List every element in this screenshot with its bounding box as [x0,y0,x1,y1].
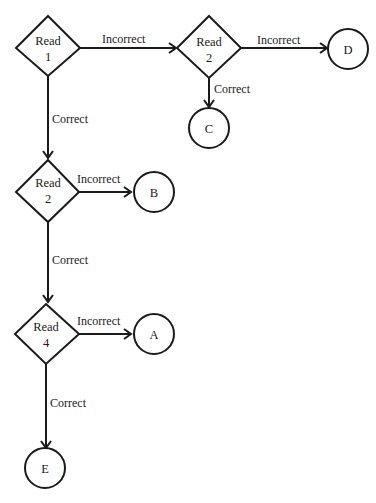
edge-label-read2-top-incorrect: Incorrect [257,33,301,47]
decision-read-4: Read 4 [15,304,79,364]
decision-read-4-line2: 4 [43,336,50,350]
terminal-c-label: C [205,122,213,136]
terminal-a: A [134,314,174,354]
edge-label-read4-correct: Correct [50,396,87,410]
terminal-e-label: E [41,462,49,476]
edge-label-read2-top-correct: Correct [214,82,251,96]
edge-label-read2-mid-incorrect: Incorrect [77,172,121,186]
terminal-a-label: A [149,328,158,342]
edge-label-read2-mid-correct: Correct [52,253,89,267]
terminal-d-label: D [343,43,352,57]
flowchart-canvas: Read 1 Read 2 Read 2 Read 4 D C B A E In… [0,0,376,503]
edge-label-read1-correct: Correct [52,112,89,126]
decision-read-1: Read 1 [16,16,80,76]
decision-read-4-line1: Read [33,320,59,334]
decision-read-2-top-line2: 2 [206,51,212,65]
terminal-d: D [328,29,368,69]
decision-read-1-line1: Read [35,34,61,48]
edge-label-read4-incorrect: Incorrect [77,314,121,328]
terminal-b: B [134,172,174,212]
decision-read-2-mid: Read 2 [16,160,79,222]
edge-label-read1-incorrect: Incorrect [102,32,146,46]
terminal-e: E [25,448,65,488]
decision-read-2-mid-line1: Read [35,176,61,190]
decision-read-2-top-line1: Read [196,35,222,49]
decision-read-1-line2: 1 [45,50,51,64]
decision-read-2-mid-line2: 2 [45,192,51,206]
terminal-b-label: B [150,186,158,200]
terminal-c: C [189,108,229,148]
decision-read-2-top: Read 2 [177,16,241,78]
